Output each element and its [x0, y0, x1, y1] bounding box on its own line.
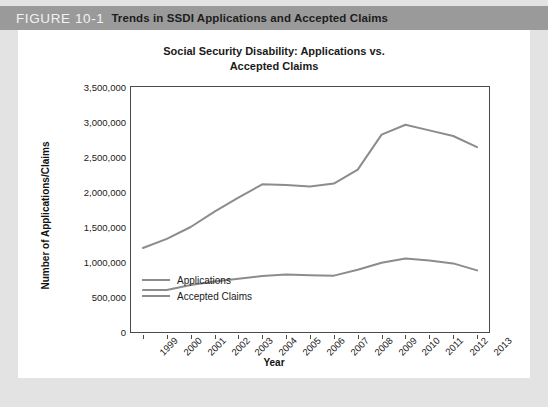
x-tick-label: 2011	[443, 335, 465, 357]
figure-caption-text: Trends in SSDI Applications and Accepted…	[111, 12, 388, 24]
legend-label: Accepted Claims	[177, 291, 252, 302]
figure-number-label: FIGURE 10-1	[16, 11, 104, 26]
chart-legend: ApplicationsAccepted Claims	[142, 272, 252, 304]
x-tick-label: 2010	[420, 335, 443, 358]
y-tick-label: 500,000	[56, 292, 126, 303]
legend-item[interactable]: Accepted Claims	[142, 288, 252, 304]
x-tick-label: 2013	[491, 335, 514, 358]
x-tick-label: 1999	[157, 335, 180, 358]
x-tick-label: 2000	[181, 335, 204, 358]
figure-header-band: FIGURE 10-1 Trends in SSDI Applications …	[0, 6, 548, 30]
x-tick-mark	[262, 335, 263, 339]
y-tick-label: 3,500,000	[56, 82, 126, 93]
series-line-applications	[143, 125, 477, 248]
x-tick-mark	[143, 335, 144, 339]
y-tick-label: 2,000,000	[56, 187, 126, 198]
chart-title: Social Security Disability: Applications…	[18, 44, 530, 74]
x-tick-label: 2003	[253, 335, 276, 358]
x-tick-mark	[191, 335, 192, 339]
x-tick-label: 2009	[396, 335, 419, 358]
legend-item[interactable]: Applications	[142, 272, 252, 288]
x-tick-label: 2005	[300, 335, 323, 358]
x-tick-label: 2006	[324, 335, 347, 358]
x-axis-tick-labels: 1999200020012002200320042005200620072008…	[130, 335, 490, 375]
y-axis-title: Number of Applications/Claims	[40, 126, 51, 306]
y-tick-label: 3,000,000	[56, 117, 126, 128]
y-axis-tick-labels: 0500,0001,000,0001,500,0002,000,0002,500…	[52, 86, 126, 333]
x-axis-title: Year	[18, 357, 530, 368]
x-tick-mark	[286, 335, 287, 339]
x-tick-mark	[238, 335, 239, 339]
x-tick-label: 2012	[467, 335, 490, 358]
legend-swatch-icon	[142, 279, 170, 281]
x-tick-label: 2004	[276, 335, 299, 358]
x-tick-mark	[167, 335, 168, 339]
figure-page: FIGURE 10-1 Trends in SSDI Applications …	[0, 0, 548, 407]
x-tick-mark	[215, 335, 216, 339]
y-tick-label: 1,500,000	[56, 222, 126, 233]
legend-swatch-icon	[142, 295, 170, 297]
x-tick-mark	[429, 335, 430, 339]
x-tick-mark	[477, 335, 478, 339]
x-tick-label: 2001	[205, 335, 228, 358]
x-tick-mark	[310, 335, 311, 339]
y-tick-label: 2,500,000	[56, 152, 126, 163]
y-tick-label: 1,000,000	[56, 257, 126, 268]
y-tick-label: 0	[56, 327, 126, 338]
chart-title-line-1: Social Security Disability: Applications…	[18, 44, 530, 59]
legend-label: Applications	[177, 275, 231, 286]
x-tick-mark	[405, 335, 406, 339]
chart-title-line-2: Accepted Claims	[18, 59, 530, 74]
x-tick-label: 2007	[348, 335, 371, 358]
x-tick-mark	[334, 335, 335, 339]
x-tick-label: 2002	[229, 335, 252, 358]
x-tick-label: 2008	[372, 335, 395, 358]
x-tick-mark	[358, 335, 359, 339]
x-tick-mark	[453, 335, 454, 339]
x-tick-mark	[382, 335, 383, 339]
figure-panel: Social Security Disability: Applications…	[18, 30, 530, 378]
